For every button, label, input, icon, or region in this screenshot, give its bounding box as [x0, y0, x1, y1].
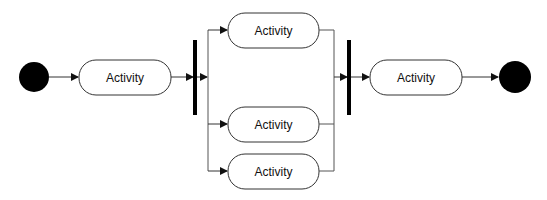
activity-node-5[interactable]: Activity: [370, 60, 462, 95]
activity-node-2[interactable]: Activity: [228, 13, 319, 48]
activity-label: Activity: [254, 165, 292, 179]
activity-node-1[interactable]: Activity: [79, 60, 171, 95]
initial-node: [19, 62, 49, 92]
activity-label: Activity: [397, 71, 435, 85]
activity-label: Activity: [106, 71, 144, 85]
final-node: [499, 61, 531, 93]
join-bar: [347, 40, 351, 115]
activity-node-4[interactable]: Activity: [228, 154, 319, 189]
activity-node-3[interactable]: Activity: [228, 107, 319, 142]
fork-bar: [193, 40, 197, 115]
activity-label: Activity: [254, 24, 292, 38]
activity-label: Activity: [254, 118, 292, 132]
activity-diagram: Activity Activity Activity Activity Acti…: [0, 0, 547, 200]
